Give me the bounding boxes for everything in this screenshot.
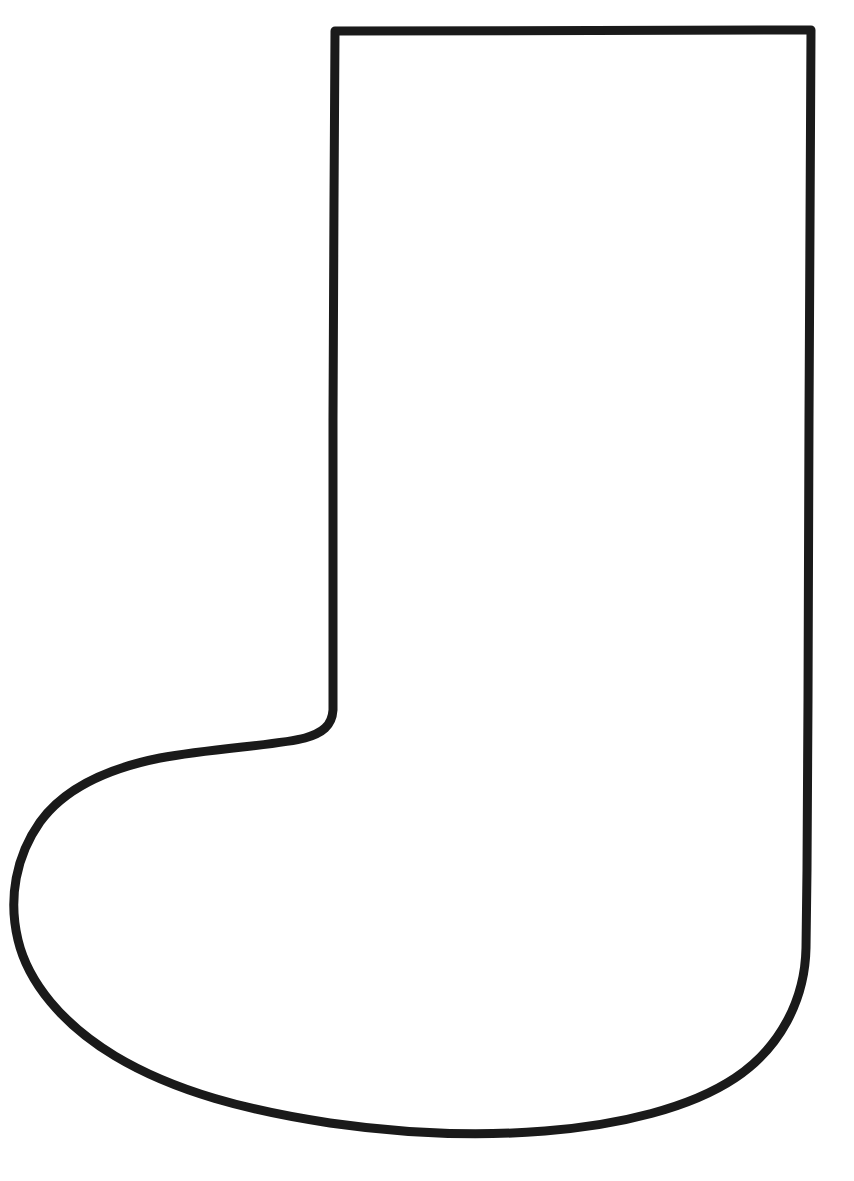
- drawing-canvas: Black outline drawing of a Christmas sto…: [0, 0, 854, 1181]
- boot-outline-svg: Black outline drawing of a Christmas sto…: [0, 0, 854, 1181]
- canvas-background: [0, 0, 854, 1181]
